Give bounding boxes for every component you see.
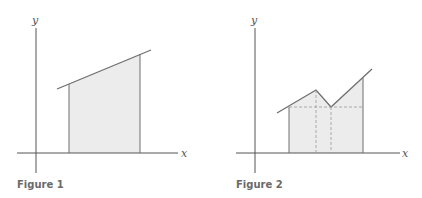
figure-2: x y [236,14,409,173]
y-axis-label: y [31,14,39,27]
y-axis-label: y [250,14,258,27]
figure-1: x y [17,14,188,173]
x-axis-label: x [402,147,409,160]
diagram-canvas: x y x y [0,0,422,198]
x-axis-label: x [181,147,188,160]
figure-1-caption: Figure 1 [17,179,64,190]
figure-2-caption: Figure 2 [236,179,283,190]
shaded-region [289,78,363,153]
